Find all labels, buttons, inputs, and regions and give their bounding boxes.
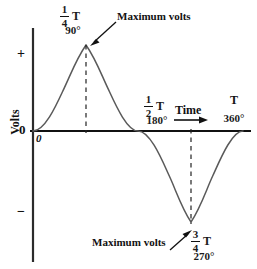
quarter-degrees-label: 90°: [52, 24, 94, 36]
y-axis-negative-marker: −: [17, 205, 25, 219]
max-volts-positive-label: Maximum volts: [117, 11, 191, 22]
quarter-period-symbol: T: [72, 9, 80, 24]
max-volts-negative-label: Maximum volts: [92, 237, 166, 248]
y-axis-positive-marker: +: [17, 47, 25, 61]
quarter-numerator: 1: [61, 4, 69, 15]
x-axis-title: Time: [175, 104, 201, 116]
max-volts-bottom-arrow: [170, 230, 192, 250]
three-quarter-numerator: 3: [192, 229, 200, 240]
time-direction-arrow: [174, 117, 208, 124]
half-numerator: 1: [145, 94, 153, 105]
sine-curve: [33, 45, 243, 222]
y-axis-zero-marker: 0: [19, 123, 26, 136]
half-period-symbol: T: [156, 99, 164, 114]
three-quarter-degrees-label: 270°: [183, 250, 225, 262]
full-period-degrees-label: 360°: [214, 112, 254, 124]
origin-label: 0: [36, 133, 42, 144]
full-period-symbol: T: [224, 94, 244, 106]
three-quarter-period-symbol: T: [203, 234, 211, 249]
half-degrees-label: 180°: [136, 114, 178, 126]
sine-wave-figure: Volts + 0 − 0 1 4 T 90° 1 2 T 180° 3 4 T…: [0, 0, 257, 269]
